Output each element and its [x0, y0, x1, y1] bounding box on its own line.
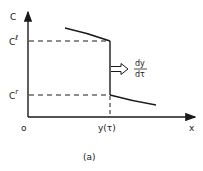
- velocity-denominator: dτ: [135, 70, 145, 79]
- upper-level-label: Cℓ: [9, 34, 18, 47]
- jump-position-label: y(τ): [98, 123, 116, 133]
- upper-profile-curve: [65, 28, 110, 41]
- figure-caption: (a): [83, 152, 96, 162]
- y-axis-label: C: [10, 12, 16, 22]
- origin-label: o: [21, 123, 27, 133]
- velocity-arrow-icon: [111, 64, 128, 75]
- concentration-profile-diagram: dy dτ C Cℓ Cr o y(τ) x (a): [0, 0, 203, 171]
- lower-profile-curve: [110, 95, 156, 105]
- lower-level-label: Cr: [9, 88, 18, 101]
- velocity-numerator: dy: [135, 59, 145, 68]
- x-axis-label: x: [189, 123, 195, 133]
